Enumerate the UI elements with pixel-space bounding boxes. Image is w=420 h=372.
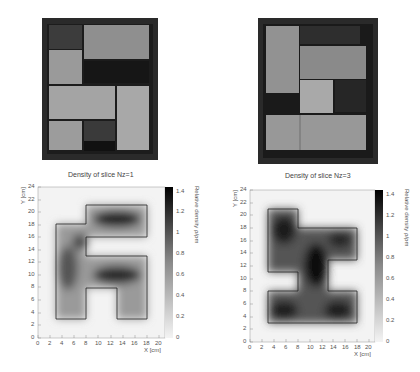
colorbar-title: Relative density ρ/ρm [404, 189, 410, 247]
colorbar-tick: 0.8 [176, 250, 184, 256]
colorbar-title: Relative density ρ/ρm [194, 186, 200, 244]
x-axis-title: X [cm] [144, 347, 161, 353]
colorbar-tick: 0.6 [386, 275, 394, 281]
y-tick: 4 [243, 313, 246, 319]
caption-nz3: Density of slice Nz=3 [285, 172, 351, 179]
y-axis-title: Y [cm] [20, 187, 26, 204]
colorbar-tick: 1.2 [386, 212, 394, 218]
y-tick: 16 [240, 237, 247, 243]
y-tick: 14 [28, 246, 35, 252]
x-tick: 8 [84, 340, 87, 346]
y-tick: 20 [28, 208, 35, 214]
y-tick: 10 [240, 275, 247, 281]
colorbar-tick: 0.2 [176, 313, 184, 319]
y-tick: 12 [28, 258, 35, 264]
colorbar-tick: 0.4 [176, 292, 184, 298]
x-tick: 14 [330, 344, 337, 350]
x-tick: 12 [107, 340, 114, 346]
x-axis-title: X [cm] [354, 351, 371, 357]
x-tick: 20 [155, 340, 162, 346]
x-tick: 2 [48, 340, 51, 346]
density-map-nz3: 0 2 4 6 8 10 12 14 16 18 20 X [cm] 0 2 4… [232, 185, 420, 365]
x-tick: 14 [119, 340, 126, 346]
colorbar-tick: 0.4 [386, 296, 394, 302]
x-tick: 18 [354, 344, 361, 350]
density-map-nz1: 0 2 4 6 8 10 12 14 16 18 20 X [cm] 0 2 4… [20, 182, 215, 362]
y-tick: 6 [243, 300, 246, 306]
y-tick: 18 [240, 224, 247, 230]
y-tick: 16 [28, 233, 35, 239]
y-tick: 6 [31, 296, 34, 302]
y-tick: 0 [243, 338, 246, 344]
x-tick: 20 [365, 344, 372, 350]
colorbar-tick: 1 [386, 233, 389, 239]
x-tick: 4 [272, 344, 275, 350]
colorbar-tick: 1.4 [386, 191, 394, 197]
x-tick: 6 [72, 340, 75, 346]
y-tick: 4 [31, 309, 34, 315]
colorbar-tick: 0.6 [176, 271, 184, 277]
colorbar-tick: 0 [386, 338, 389, 344]
x-tick: 10 [307, 344, 314, 350]
y-tick: 14 [240, 249, 247, 255]
x-tick: 4 [60, 340, 63, 346]
colorbar-tick: 0 [176, 334, 179, 340]
colorbar-tick: 1.2 [176, 208, 184, 214]
x-tick: 12 [319, 344, 326, 350]
x-tick: 16 [131, 340, 138, 346]
y-tick: 8 [31, 283, 34, 289]
x-tick: 8 [296, 344, 299, 350]
x-tick: 18 [143, 340, 150, 346]
x-tick: 6 [284, 344, 287, 350]
y-tick: 22 [240, 199, 247, 205]
y-axis-title: Y [cm] [232, 190, 238, 207]
y-tick: 24 [240, 186, 247, 192]
caption-nz1: Density of slice Nz=1 [68, 171, 134, 178]
y-tick: 10 [28, 271, 35, 277]
colorbar-tick: 1 [176, 229, 179, 235]
y-tick: 20 [240, 211, 247, 217]
y-tick: 0 [31, 334, 34, 340]
x-tick: 0 [36, 340, 39, 346]
y-tick: 12 [240, 262, 247, 268]
box-photo-nz3-illustration [258, 18, 378, 164]
photo-slice-nz3 [258, 18, 378, 164]
x-tick: 0 [248, 344, 251, 350]
colorbar-tick: 0.2 [386, 317, 394, 323]
x-tick: 2 [260, 344, 263, 350]
y-tick: 8 [243, 287, 246, 293]
y-tick: 2 [31, 321, 34, 327]
heatmap-nz1-svg [20, 182, 215, 362]
y-tick: 22 [28, 196, 35, 202]
x-tick: 10 [95, 340, 102, 346]
photo-slice-nz1 [42, 18, 158, 160]
y-tick: 24 [28, 183, 35, 189]
colorbar-tick: 1.4 [176, 188, 184, 194]
box-photo-nz1-illustration [42, 18, 158, 160]
y-tick: 18 [28, 221, 35, 227]
y-tick: 2 [243, 325, 246, 331]
x-tick: 16 [342, 344, 349, 350]
colorbar-tick: 0.8 [386, 254, 394, 260]
